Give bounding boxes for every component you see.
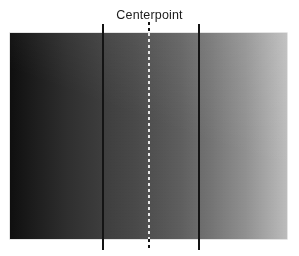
centerpoint-label: Centerpoint [0,8,299,22]
gradient-figure: Centerpoint [0,0,299,256]
centerpoint-line-middle [148,33,150,239]
centerpoint-line-upper [148,22,150,33]
right-boundary-line [198,24,200,250]
left-boundary-line [102,24,104,250]
centerpoint-line-lower [148,239,150,250]
